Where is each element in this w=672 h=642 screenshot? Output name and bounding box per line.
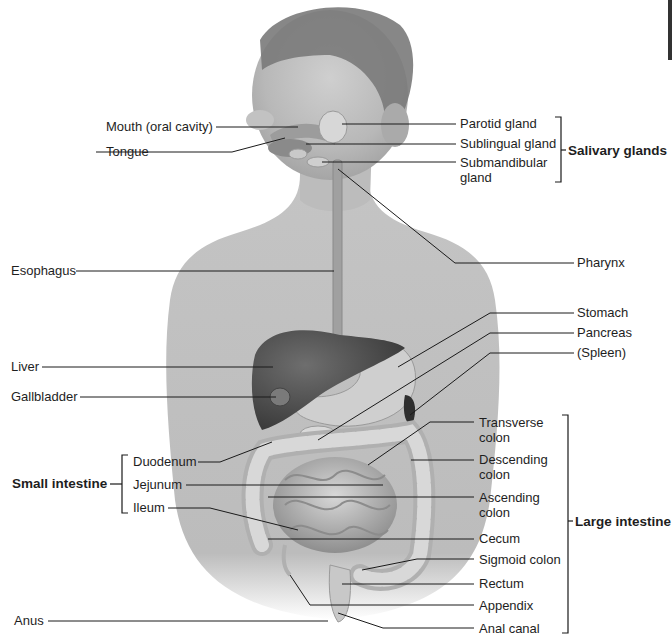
label-small-intestine: Small intestine bbox=[12, 476, 107, 491]
head bbox=[246, 7, 413, 180]
label-anus: Anus bbox=[14, 613, 44, 628]
label-stomach: Stomach bbox=[577, 305, 628, 320]
label-gallbladder: Gallbladder bbox=[11, 389, 78, 404]
label-appendix: Appendix bbox=[479, 598, 533, 613]
label-pharynx: Pharynx bbox=[577, 255, 625, 270]
small-intestine-bracket bbox=[122, 455, 128, 513]
label-descending-colon: Descending colon bbox=[479, 452, 559, 482]
parotid-gland bbox=[319, 111, 347, 143]
label-esophagus: Esophagus bbox=[11, 263, 76, 278]
label-large-intestine: Large intestine bbox=[575, 514, 671, 529]
label-anal-canal: Anal canal bbox=[479, 621, 540, 636]
label-sublingual-gland: Sublingual gland bbox=[460, 136, 556, 151]
sublingual-gland bbox=[289, 149, 307, 159]
label-duodenum: Duodenum bbox=[133, 454, 197, 469]
label-sigmoid-colon: Sigmoid colon bbox=[479, 552, 561, 567]
label-mouth: Mouth (oral cavity) bbox=[106, 119, 213, 134]
label-salivary-glands: Salivary glands bbox=[568, 143, 667, 158]
label-submandibular-gland: Submandibular gland bbox=[460, 155, 555, 185]
label-tongue: Tongue bbox=[106, 144, 149, 159]
large-intestine-bracket bbox=[562, 415, 568, 633]
label-transverse-colon: Transverse colon bbox=[479, 415, 559, 445]
digestive-system-illustration bbox=[0, 0, 672, 642]
label-parotid-gland: Parotid gland bbox=[460, 116, 537, 131]
label-liver: Liver bbox=[11, 359, 39, 374]
label-ileum: Ileum bbox=[133, 500, 165, 515]
label-jejunum: Jejunum bbox=[133, 477, 182, 492]
label-spleen: (Spleen) bbox=[577, 345, 626, 360]
label-pancreas: Pancreas bbox=[577, 325, 632, 340]
esophagus bbox=[333, 160, 342, 355]
label-cecum: Cecum bbox=[479, 531, 520, 546]
page-edge-bar bbox=[668, 0, 672, 60]
label-ascending-colon: Ascending colon bbox=[479, 490, 559, 520]
label-rectum: Rectum bbox=[479, 576, 524, 591]
